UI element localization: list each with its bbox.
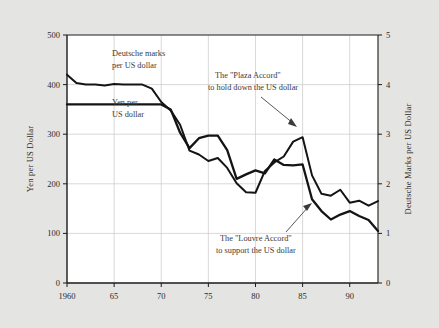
left-tick-label: 200 — [47, 179, 60, 189]
right-tick-label: 0 — [386, 278, 390, 288]
louvre-accord-annotation-line2: to support the US dollar — [216, 246, 296, 255]
x-tick-label: 80 — [251, 291, 260, 301]
left-tick-label: 300 — [47, 129, 60, 139]
left-tick-label: 400 — [47, 80, 60, 90]
x-tick-label: 1960 — [59, 291, 76, 301]
right-tick-label: 1 — [386, 228, 390, 238]
yen-series-label-line2: US dollar — [112, 110, 144, 119]
dm-series-label-line1: Deutsche marks — [112, 49, 165, 58]
figure-caption — [8, 314, 433, 326]
right-tick-label: 2 — [386, 179, 390, 189]
plaza-accord-annotation-line1: The "Plaza Accord" — [215, 71, 281, 80]
right-axis-title: Deutsche Marks per US Dollar — [403, 104, 413, 215]
exchange-rate-line-chart: 0100200300400500 012345 1960657075808590… — [0, 0, 439, 328]
right-tick-label: 5 — [386, 30, 390, 40]
x-tick-label: 70 — [157, 291, 166, 301]
louvre-accord-annotation-line1: The "Louvre Accord" — [220, 234, 292, 243]
x-tick-label: 85 — [298, 291, 307, 301]
left-axis-title: Yen per US Dollar — [25, 126, 35, 193]
left-tick-label: 500 — [47, 30, 60, 40]
x-tick-label: 90 — [345, 291, 354, 301]
left-tick-label: 0 — [56, 278, 60, 288]
x-tick-label: 75 — [204, 291, 213, 301]
left-tick-label: 100 — [47, 228, 60, 238]
yen-series-label-line1: Yen per — [112, 98, 138, 107]
plaza-accord-annotation-line2: to hold down the US dollar — [208, 83, 298, 92]
dm-series-label-line2: per US dollar — [112, 61, 157, 70]
right-tick-label: 3 — [386, 129, 390, 139]
x-tick-label: 65 — [110, 291, 119, 301]
chart-figure: 0100200300400500 012345 1960657075808590… — [0, 0, 439, 328]
